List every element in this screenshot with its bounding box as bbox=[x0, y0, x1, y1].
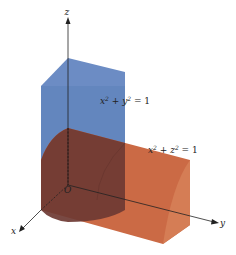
x-axis bbox=[22, 210, 41, 229]
y-axis-label: y bbox=[219, 218, 226, 228]
z-arrow-icon bbox=[66, 17, 71, 24]
y-arrow-icon bbox=[211, 219, 219, 225]
z-axis-label: z bbox=[64, 7, 70, 17]
blue-cylinder-top bbox=[41, 58, 125, 86]
x-arrow-icon bbox=[19, 225, 25, 232]
x-axis-label: x bbox=[11, 226, 16, 236]
cylinder-intersection-figure: z y x O x2 + y2 = 1 x2 + z2 = 1 bbox=[0, 0, 236, 255]
overlap-region bbox=[41, 128, 125, 222]
origin-label: O bbox=[64, 185, 72, 195]
